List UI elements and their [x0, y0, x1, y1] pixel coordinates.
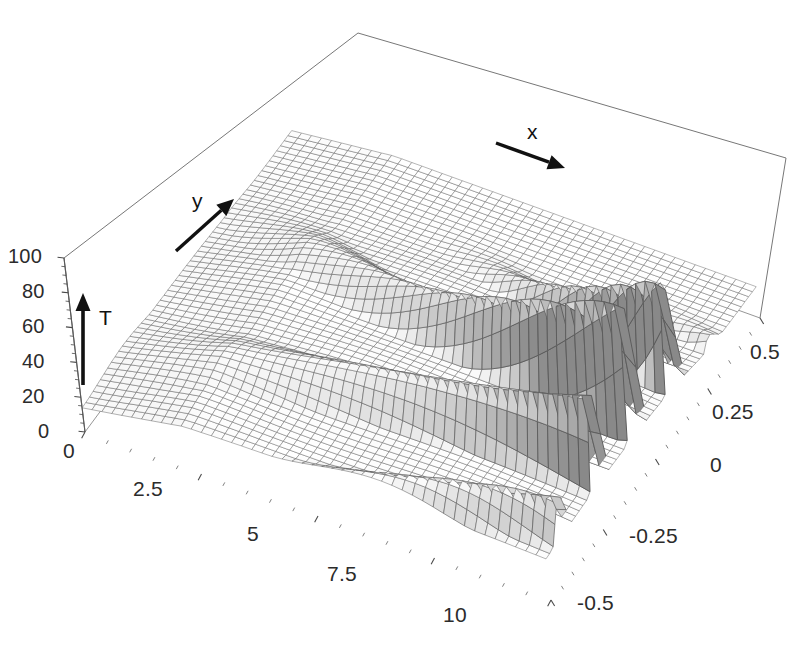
- y-axis-tick-4: 10: [443, 604, 467, 625]
- surface-plot-canvas: [0, 0, 800, 655]
- surface-plot-figure: 10080604020002.557.5100.50.250-0.25-0.5x…: [0, 0, 800, 655]
- x-axis-tick-3: -0.25: [629, 525, 678, 546]
- x-axis-tick-1: 0.25: [712, 401, 754, 422]
- y-axis-tick-3: 7.5: [327, 563, 357, 584]
- surface-mesh: [82, 131, 756, 559]
- y-axis-tick-2: 5: [247, 523, 259, 544]
- x-axis-tick-2: 0: [710, 454, 722, 475]
- t-axis-tick-3: 40: [22, 351, 45, 372]
- x-axis-arrow: [496, 143, 565, 169]
- t-axis-tick-2: 60: [22, 316, 45, 337]
- y-axis-tick-0: 0: [63, 440, 75, 461]
- t-axis-tick-4: 20: [22, 386, 45, 407]
- t-axis-tick-1: 80: [22, 281, 45, 302]
- t-axis-tick-0: 100: [8, 246, 42, 267]
- x-axis-label: x: [527, 121, 538, 142]
- y-axis-tick-1: 2.5: [133, 478, 163, 499]
- y-axis-label: y: [192, 190, 203, 211]
- x-axis-tick-4: -0.5: [577, 592, 614, 613]
- x-axis-tick-0: 0.5: [750, 341, 780, 362]
- t-axis-tick-5: 0: [38, 421, 49, 442]
- t-axis-label: T: [99, 307, 112, 328]
